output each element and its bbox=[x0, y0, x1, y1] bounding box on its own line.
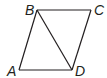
segment-ab bbox=[19, 10, 37, 70]
vertex-label-c: C bbox=[94, 2, 105, 18]
vertex-label-d: D bbox=[75, 63, 85, 78]
vertex-label-a: A bbox=[6, 63, 16, 78]
parallelogram-diagram: B C A D bbox=[0, 0, 107, 78]
segment-cd bbox=[72, 10, 91, 70]
vertex-label-b: B bbox=[25, 2, 34, 18]
diagonal-bd bbox=[37, 10, 72, 70]
